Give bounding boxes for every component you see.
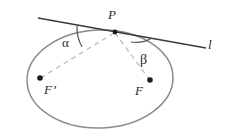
focus-f-prime-marker (37, 75, 43, 81)
label-tangent-line: l (208, 38, 212, 51)
label-angle-beta: β (140, 53, 147, 67)
ellipse-tangent-figure: P l α β F’ F (0, 0, 231, 136)
label-angle-alpha: α (62, 36, 69, 49)
focus-f-marker (147, 77, 153, 83)
label-focus-f-prime: F’ (44, 83, 56, 96)
angle-arc-alpha (77, 26, 82, 47)
point-p-marker (113, 30, 118, 35)
dashed-segment-p-to-f-prime (42, 33, 114, 77)
label-point-p: P (108, 8, 116, 21)
label-focus-f: F (135, 84, 143, 97)
